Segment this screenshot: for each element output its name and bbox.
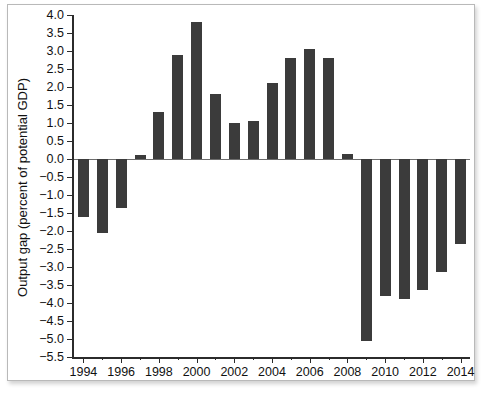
bar [135, 155, 146, 159]
x-axis-minor-tick [215, 357, 216, 360]
x-axis-tick [234, 357, 235, 363]
y-axis-tick-label: 2.5 [47, 63, 64, 76]
y-axis-tick-label: 1.0 [47, 117, 64, 130]
bar [417, 159, 428, 290]
x-axis-tick [197, 357, 198, 363]
plot-area: 4.03.53.02.52.01.51.00.50.0−0.5−1.0−1.5−… [72, 15, 470, 359]
y-axis-tick [67, 213, 74, 214]
x-axis-tick-label: 1994 [70, 366, 98, 379]
y-axis-tick-label: 0.0 [47, 153, 64, 166]
y-axis-tick-label: 2.0 [47, 81, 64, 94]
y-axis-tick [67, 267, 74, 268]
bar [399, 159, 410, 299]
x-axis-tick [385, 357, 386, 363]
x-axis-tick-label: 2006 [296, 366, 324, 379]
x-axis-tick [461, 357, 462, 363]
y-axis-tick-label: −2.5 [39, 243, 64, 256]
bar [304, 49, 315, 159]
x-axis-tick-label: 2010 [371, 366, 399, 379]
y-axis-tick-label: 0.5 [47, 135, 64, 148]
x-axis-tick [272, 357, 273, 363]
y-axis-tick-label: 1.5 [47, 99, 64, 112]
bar [380, 159, 391, 296]
bar [361, 159, 372, 341]
bar [78, 159, 89, 217]
bar [210, 94, 221, 159]
bar [436, 159, 447, 272]
y-axis-tick [67, 87, 74, 88]
bar [172, 55, 183, 159]
x-axis-tick [83, 357, 84, 363]
x-axis-tick [423, 357, 424, 363]
y-axis-tick-label: 3.0 [47, 45, 64, 58]
y-axis-tick [67, 15, 74, 16]
x-axis-minor-tick [404, 357, 405, 360]
y-axis-tick [67, 249, 74, 250]
bar [116, 159, 127, 208]
bar [229, 123, 240, 159]
y-axis-tick [67, 195, 74, 196]
y-axis-tick [67, 285, 74, 286]
x-axis-minor-tick [140, 357, 141, 360]
y-axis-tick-label: 4.0 [47, 9, 64, 22]
y-axis-tick-label: −3.5 [39, 279, 64, 292]
y-axis-tick [67, 159, 74, 160]
bar [342, 154, 353, 159]
bar [153, 112, 164, 159]
y-axis-title: Output gap (percent of potential GDP) [12, 15, 32, 359]
x-axis-tick [159, 357, 160, 363]
x-axis-tick-label: 1998 [145, 366, 173, 379]
y-axis-tick [67, 33, 74, 34]
y-axis-tick [67, 231, 74, 232]
bar [248, 121, 259, 159]
x-axis-tick-label: 1996 [107, 366, 135, 379]
y-axis-tick-label: −1.5 [39, 207, 64, 220]
x-axis-tick-label: 2002 [220, 366, 248, 379]
y-axis-tick [67, 321, 74, 322]
figure-container: Output gap (percent of potential GDP) 4.… [0, 0, 487, 395]
y-axis-tick [67, 177, 74, 178]
y-axis-tick [67, 339, 74, 340]
zero-baseline [74, 159, 470, 160]
x-axis-minor-tick [442, 357, 443, 360]
x-axis-minor-tick [291, 357, 292, 360]
y-axis-tick-label: −2.0 [39, 225, 64, 238]
y-axis-tick [67, 105, 74, 106]
bar [97, 159, 108, 233]
y-axis-tick [67, 51, 74, 52]
y-axis-tick-label: −5.5 [39, 351, 64, 364]
x-axis-tick-label: 2008 [334, 366, 362, 379]
bar [323, 58, 334, 159]
x-axis-minor-tick [329, 357, 330, 360]
bar [267, 83, 278, 159]
x-axis-tick [121, 357, 122, 363]
y-axis-tick-label: −0.5 [39, 171, 64, 184]
bar [285, 58, 296, 159]
y-axis-tick [67, 123, 74, 124]
x-axis-minor-tick [253, 357, 254, 360]
y-axis-title-text: Output gap (percent of potential GDP) [15, 78, 30, 297]
bar [455, 159, 466, 244]
y-axis-tick-label: −4.0 [39, 297, 64, 310]
y-axis-tick-label: −1.0 [39, 189, 64, 202]
x-axis-tick [310, 357, 311, 363]
y-axis-tick-label: 3.5 [47, 27, 64, 40]
x-axis-tick-label: 2012 [409, 366, 437, 379]
y-axis-tick [67, 357, 74, 358]
x-axis-minor-tick [366, 357, 367, 360]
y-axis-tick-label: −3.0 [39, 261, 64, 274]
y-axis-tick [67, 141, 74, 142]
y-axis-tick [67, 303, 74, 304]
x-axis-minor-tick [178, 357, 179, 360]
bar [191, 22, 202, 159]
y-axis-tick-label: −4.5 [39, 315, 64, 328]
x-axis-minor-tick [102, 357, 103, 360]
y-axis-tick-label: −5.0 [39, 333, 64, 346]
y-axis-tick [67, 69, 74, 70]
x-axis-tick-label: 2000 [183, 366, 211, 379]
x-axis-tick-label: 2004 [258, 366, 286, 379]
x-axis-tick [347, 357, 348, 363]
x-axis-tick-label: 2014 [447, 366, 475, 379]
